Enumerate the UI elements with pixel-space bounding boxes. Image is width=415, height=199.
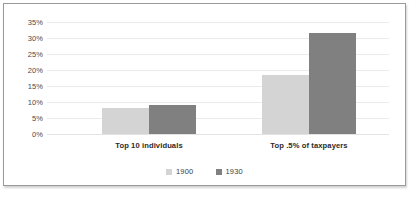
bar-1900-1 (262, 75, 309, 134)
legend-swatch-icon (216, 169, 222, 175)
chart-container: 35%30%25%20%15%10%5%0% Top 10 individual… (3, 3, 406, 186)
legend-label: 1930 (226, 167, 244, 176)
y-axis-tick-label: 10% (9, 98, 43, 107)
y-axis-tick-label: 20% (9, 66, 43, 75)
legend-swatch-icon (166, 169, 172, 175)
y-axis-tick-label: 5% (9, 114, 43, 123)
y-axis-tick-label: 15% (9, 82, 43, 91)
gridline (47, 22, 389, 23)
plot-area (47, 22, 389, 134)
y-axis-tick-label: 35% (9, 18, 43, 27)
legend-item-1900[interactable]: 1900 (166, 167, 194, 176)
y-axis-tick-label: 30% (9, 34, 43, 43)
y-axis-tick-label: 25% (9, 50, 43, 59)
y-axis: 35%30%25%20%15%10%5%0% (9, 22, 43, 134)
bar-1930-0 (149, 105, 196, 134)
bar-1900-0 (102, 108, 149, 134)
legend-item-1930[interactable]: 1930 (216, 167, 244, 176)
bar-1930-1 (309, 33, 356, 134)
gridline (47, 134, 389, 135)
category-label-1: Top .5% of taxpayers (219, 141, 399, 150)
legend-label: 1900 (176, 167, 194, 176)
y-axis-tick-label: 0% (9, 130, 43, 139)
category-label-0: Top 10 individuals (59, 141, 239, 150)
legend: 19001930 (4, 167, 405, 176)
